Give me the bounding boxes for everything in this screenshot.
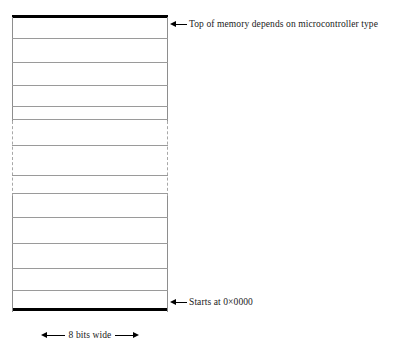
- width-dimension-label: 8 bits wide: [69, 330, 112, 340]
- start-address-callout: Starts at 0×0000: [170, 297, 253, 307]
- memory-cell-divider: [12, 243, 168, 244]
- memory-cell-divider: [12, 145, 168, 146]
- arrow-left-icon: [41, 332, 65, 339]
- top-of-memory-callout: Top of memory depends on microcontroller…: [170, 19, 378, 29]
- memory-cell-divider: [12, 85, 168, 86]
- memory-cell-divider: [12, 268, 168, 269]
- right-edge-lower: [167, 196, 168, 312]
- right-edge-elided: [167, 121, 168, 196]
- memory-cell-divider: [12, 290, 168, 291]
- memory-cell-divider: [12, 119, 168, 120]
- memory-column: [12, 15, 168, 311]
- memory-cell-divider: [12, 193, 168, 194]
- arrow-left-icon: [170, 21, 187, 28]
- memory-cell-divider: [12, 62, 168, 63]
- memory-cell-divider: [12, 217, 168, 218]
- memory-map-diagram: Top of memory depends on microcontroller…: [0, 0, 393, 348]
- memory-cell-divider: [12, 106, 168, 107]
- memory-cell-divider: [12, 38, 168, 39]
- start-address-label: Starts at 0×0000: [189, 297, 253, 307]
- arrow-right-icon: [115, 332, 139, 339]
- arrow-left-icon: [170, 299, 187, 306]
- memory-cell-divider: [12, 175, 168, 176]
- width-dimension: 8 bits wide: [12, 328, 168, 342]
- top-of-memory-label: Top of memory depends on microcontroller…: [189, 19, 378, 29]
- memory-bottom-boundary-bar: [12, 308, 168, 311]
- left-edge-lower: [12, 196, 13, 312]
- left-edge-elided: [12, 121, 13, 196]
- memory-top-boundary-bar: [12, 15, 168, 18]
